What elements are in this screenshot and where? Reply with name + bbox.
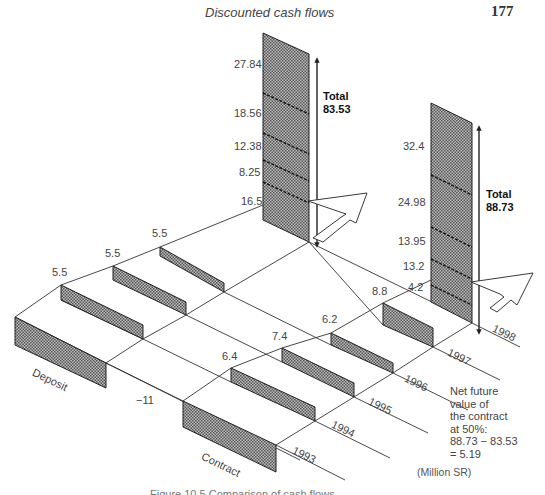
note-line: at 50%: bbox=[450, 423, 518, 436]
deposit-flow-label-3: 5.5 bbox=[152, 227, 167, 239]
deposit-flow-label-1: 5.5 bbox=[52, 266, 67, 278]
deposit-flow-bar-2 bbox=[113, 266, 186, 315]
contract-initial-label: −11 bbox=[136, 394, 154, 406]
contract-component-4: 13.2 bbox=[403, 260, 424, 272]
deposit-total-bar bbox=[263, 33, 309, 242]
contract-component-3: 13.95 bbox=[398, 235, 426, 247]
contract-flow-label-1: 6.4 bbox=[222, 350, 237, 362]
note-line: the contract bbox=[450, 410, 518, 423]
contract-flow-bar-3 bbox=[331, 333, 393, 373]
units-label: (Million SR) bbox=[417, 466, 471, 478]
deposit-total: Total 83.53 bbox=[323, 90, 351, 116]
contract-flow-bar-1 bbox=[231, 368, 315, 421]
figure-caption: Figure 10.5 Comparison of cash flows bbox=[150, 488, 335, 495]
note-line: = 5.19 bbox=[450, 448, 518, 461]
note-line: 88.73 − 83.53 bbox=[450, 435, 518, 448]
deposit-flow-bar-3 bbox=[160, 247, 224, 292]
note-line: value of bbox=[450, 398, 518, 411]
contract-flow-label-2: 7.4 bbox=[272, 330, 287, 342]
contract-component-5: 4.2 bbox=[408, 281, 423, 293]
deposit-component-1: 27.84 bbox=[234, 58, 262, 70]
contract-component-1: 32.4 bbox=[403, 140, 424, 152]
contract-total: Total 88.73 bbox=[486, 188, 514, 214]
contract-flow-label-3: 6.2 bbox=[322, 313, 337, 325]
contract-total-label: Total bbox=[486, 188, 514, 201]
contract-big-arrow bbox=[471, 273, 533, 312]
contract-total-bar bbox=[431, 103, 472, 323]
contract-bars bbox=[183, 103, 472, 472]
deposit-component-5: 16.5 bbox=[241, 195, 262, 207]
deposit-bars bbox=[15, 33, 309, 388]
deposit-component-2: 18.56 bbox=[234, 107, 262, 119]
contract-total-value: 88.73 bbox=[486, 201, 514, 214]
note-line: Net future bbox=[450, 385, 518, 398]
contract-flow-bar-4 bbox=[383, 303, 433, 347]
contract-component-2: 24.98 bbox=[398, 196, 426, 208]
net-future-value-note: Net future value of the contract at 50%:… bbox=[450, 385, 518, 460]
contract-flow-bar-2 bbox=[282, 348, 354, 397]
deposit-component-4: 8.25 bbox=[239, 166, 260, 178]
deposit-component-3: 12.38 bbox=[234, 140, 262, 152]
contract-flow-label-4: 8.8 bbox=[372, 285, 387, 297]
deposit-flow-label-2: 5.5 bbox=[105, 247, 120, 259]
deposit-total-label: Total bbox=[323, 90, 351, 103]
deposit-total-value: 83.53 bbox=[323, 103, 351, 116]
deposit-flow-bar-1 bbox=[61, 285, 143, 339]
